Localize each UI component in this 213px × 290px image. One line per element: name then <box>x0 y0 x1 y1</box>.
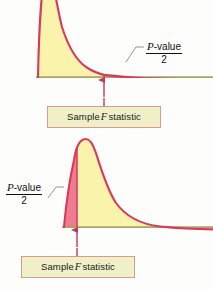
lower-statistic-suffix: statistic <box>82 262 115 272</box>
upper-sample-statistic-box: Sample F statistic <box>47 106 161 128</box>
lower-pvalue-p-symbol: P <box>7 181 14 193</box>
upper-statistic-suffix: statistic <box>108 112 141 122</box>
lower-pvalue-denominator: 2 <box>6 195 42 206</box>
upper-curve-body-fill <box>38 0 104 77</box>
upper-distribution-panel <box>36 0 213 106</box>
lower-pvalue-leader-line <box>48 187 64 198</box>
upper-pvalue-label: P-value 2 <box>146 41 182 65</box>
lower-statistic-f-symbol: F <box>74 262 83 273</box>
figure-container: P-value 2 Sample F statistic P-value 2 S… <box>0 0 213 290</box>
lower-statistic-prefix: Sample <box>41 262 74 272</box>
lower-pvalue-label: P-value 2 <box>6 182 42 206</box>
upper-pvalue-leader-line <box>126 47 144 62</box>
lower-pvalue-value-text: -value <box>14 182 41 193</box>
upper-pvalue-p-symbol: P <box>147 40 154 52</box>
lower-curve-body-fill <box>77 139 213 229</box>
upper-pvalue-denominator: 2 <box>146 54 182 65</box>
lower-distribution-panel <box>48 139 213 256</box>
upper-pvalue-numerator: P-value <box>146 41 182 54</box>
upper-statistic-prefix: Sample <box>67 112 100 122</box>
lower-sample-statistic-box: Sample F statistic <box>21 256 135 278</box>
lower-pvalue-numerator: P-value <box>6 182 42 195</box>
upper-pvalue-value-text: -value <box>154 41 181 52</box>
upper-statistic-f-symbol: F <box>100 112 109 123</box>
